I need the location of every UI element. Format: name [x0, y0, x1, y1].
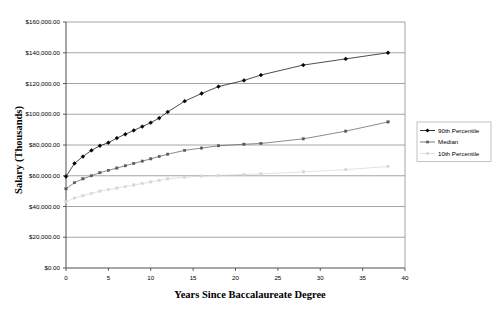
data-point-marker [115, 136, 119, 140]
x-axis-tick-label: 0 [64, 274, 68, 281]
data-series-layer [64, 51, 390, 203]
data-point-marker [302, 171, 304, 173]
x-axis-tick-label: 40 [402, 274, 409, 281]
data-point-marker [65, 188, 67, 190]
data-point-marker [132, 128, 136, 132]
x-axis-tick-label: 20 [232, 274, 239, 281]
data-point-marker [116, 167, 118, 169]
series-10th-percentile [65, 165, 389, 203]
salary-percentile-line-chart: $0.00$20,000.00$40,000.00$60,000.00$80,0… [0, 0, 497, 312]
data-point-marker [183, 149, 185, 151]
data-point-marker [158, 179, 160, 181]
data-point-marker [82, 195, 84, 197]
data-point-marker [217, 174, 219, 176]
data-point-marker [64, 175, 68, 179]
data-point-marker [150, 158, 152, 160]
y-axis-tick-labels: $0.00$20,000.00$40,000.00$60,000.00$80,0… [26, 18, 61, 271]
data-point-marker [116, 187, 118, 189]
legend-item-label: 10th Percentile [438, 150, 480, 157]
data-point-marker [243, 173, 245, 175]
data-point-marker [200, 147, 202, 149]
legend-swatch-marker [426, 141, 429, 144]
data-point-marker [150, 181, 152, 183]
x-axis-tick-label: 5 [107, 274, 111, 281]
data-point-marker [301, 63, 305, 67]
y-axis-tick-label: $60,000.00 [29, 172, 61, 179]
y-axis-title: Salary (Thousands) [13, 106, 25, 194]
data-point-marker [344, 57, 348, 61]
data-point-marker [260, 142, 262, 144]
x-axis-tick-label: 35 [359, 274, 366, 281]
data-point-marker [124, 165, 126, 167]
series-median [65, 121, 389, 190]
data-point-marker [90, 192, 92, 194]
data-point-marker [344, 168, 346, 170]
x-axis-tick-label: 15 [190, 274, 197, 281]
data-point-marker [344, 130, 346, 132]
data-point-marker [107, 169, 109, 171]
data-point-marker [183, 99, 187, 103]
data-point-marker [386, 51, 390, 55]
data-point-marker [217, 85, 221, 89]
x-axis-tick-labels: 0510152025303540 [64, 274, 409, 281]
y-axis-tick-label: $140,000.00 [26, 49, 61, 56]
y-axis-tick-label: $40,000.00 [29, 203, 61, 210]
chart-legend: 90th PercentileMedian10th Percentile [417, 122, 491, 162]
data-point-marker [99, 190, 101, 192]
data-point-marker [82, 178, 84, 180]
data-point-marker [133, 184, 135, 186]
y-axis-tick-label: $160,000.00 [26, 18, 61, 25]
y-axis-tick-label: $20,000.00 [29, 233, 61, 240]
data-point-marker [200, 175, 202, 177]
legend-item-label: 90th Percentile [438, 127, 480, 134]
data-point-marker [99, 171, 101, 173]
data-point-marker [123, 132, 127, 136]
x-axis-title: Years Since Baccalaureate Degree [174, 289, 326, 300]
data-point-marker [149, 121, 153, 125]
y-axis-tick-label: $100,000.00 [26, 110, 61, 117]
data-point-marker [243, 143, 245, 145]
legend-item-label: Median [438, 138, 459, 145]
data-point-marker [98, 144, 102, 148]
data-point-marker [140, 125, 144, 129]
data-point-marker [107, 188, 109, 190]
series-line [66, 167, 388, 202]
y-axis-tick-label: $80,000.00 [29, 141, 61, 148]
data-point-marker [387, 165, 389, 167]
data-point-marker [124, 185, 126, 187]
data-point-marker [302, 138, 304, 140]
data-point-marker [387, 121, 389, 123]
data-point-marker [106, 141, 110, 145]
series-line [66, 53, 388, 177]
data-point-marker [141, 160, 143, 162]
data-point-marker [200, 92, 204, 96]
data-point-marker [158, 155, 160, 157]
y-axis-tick-label: $120,000.00 [26, 80, 61, 87]
series-line [66, 122, 388, 189]
data-point-marker [260, 173, 262, 175]
data-point-marker [73, 181, 75, 183]
data-point-marker [217, 145, 219, 147]
data-point-marker [90, 175, 92, 177]
data-point-marker [141, 182, 143, 184]
data-point-marker [133, 162, 135, 164]
axes [63, 22, 405, 271]
data-point-marker [259, 73, 263, 77]
data-point-marker [73, 197, 75, 199]
legend-swatch-marker [426, 152, 429, 155]
x-axis-tick-label: 30 [317, 274, 324, 281]
chart-container: $0.00$20,000.00$40,000.00$60,000.00$80,0… [0, 0, 497, 312]
data-point-marker [65, 201, 67, 203]
series-90th-percentile [64, 51, 390, 179]
data-point-marker [242, 79, 246, 83]
x-axis-tick-label: 10 [147, 274, 154, 281]
y-axis-tick-label: $0.00 [45, 264, 61, 271]
data-point-marker [183, 176, 185, 178]
data-point-marker [167, 178, 169, 180]
x-axis-tick-label: 25 [274, 274, 281, 281]
data-point-marker [167, 153, 169, 155]
